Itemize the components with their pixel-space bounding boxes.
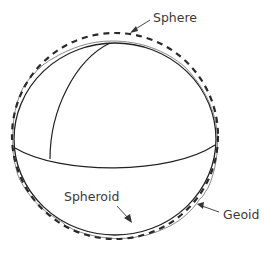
geoid-arrow xyxy=(202,206,219,212)
meridian-line xyxy=(50,43,110,159)
sphere-arrowhead xyxy=(130,26,138,33)
geoid-arrowhead xyxy=(197,202,204,209)
geoid-label: Geoid xyxy=(223,209,259,222)
spheroid-outline xyxy=(14,43,216,235)
sphere-outline xyxy=(12,33,218,239)
equator-line xyxy=(15,145,215,168)
sphere-label: Sphere xyxy=(153,12,197,25)
spheroid-label: Spheroid xyxy=(64,191,119,204)
